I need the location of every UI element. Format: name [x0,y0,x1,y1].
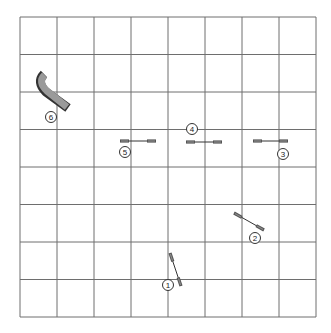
obstacle-6-tunnel[interactable] [40,74,68,108]
obstacle-labels: 123456 [46,112,289,291]
number-text: 5 [123,148,128,157]
obstacle-number-6: 6 [46,112,57,123]
obstacle-2-jump[interactable] [234,213,264,230]
number-text: 6 [49,113,54,122]
obstacle-number-4: 4 [187,124,198,135]
course-map: 123456 [0,0,331,333]
number-text: 1 [166,281,171,290]
number-text: 4 [190,125,195,134]
number-text: 2 [253,234,258,243]
obstacle-number-1: 1 [163,280,174,291]
obstacle-number-2: 2 [250,233,261,244]
obstacle-number-3: 3 [278,149,289,160]
grid [20,17,316,317]
obstacle-number-5: 5 [120,147,131,158]
obstacles [120,141,288,286]
number-text: 3 [281,150,286,159]
